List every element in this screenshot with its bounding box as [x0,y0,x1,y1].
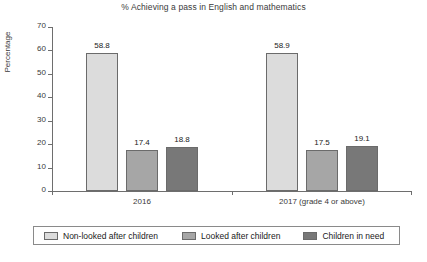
legend-item-children-in-need: Children in need [303,231,384,241]
y-tick-mark [48,97,52,98]
legend-item-non-looked-after-children: Non-looked after children [44,231,158,241]
bar-2016-series-0 [86,53,118,191]
bar-value-label: 58.8 [80,41,124,50]
legend-label-1: Looked after children [201,231,280,241]
category-label: 2017 (grade 4 or above) [232,197,412,206]
category-label: 2016 [52,197,232,206]
bar-value-label: 17.5 [300,138,344,147]
y-tick-label: 30 [37,115,46,124]
bar-value-label: 17.4 [120,138,164,147]
legend-swatch-icon-1 [182,232,196,240]
bar-2016-series-1 [126,150,158,191]
y-tick-label: 70 [37,21,46,30]
y-tick-label: 50 [37,68,46,77]
y-tick-mark [48,74,52,75]
y-tick-label: 60 [37,44,46,53]
y-axis-line [52,27,53,191]
bar-2017-grade-4-or-above--series-0 [266,53,298,191]
y-tick-mark [48,27,52,28]
y-tick-mark [48,50,52,51]
chart-title: % Achieving a pass in English and mathem… [0,2,427,12]
chart-legend: Non-looked after children Looked after c… [33,226,400,245]
bar-value-label: 19.1 [340,134,384,143]
legend-swatch-icon-0 [44,232,58,240]
y-tick-mark [48,144,52,145]
y-tick-mark [48,121,52,122]
bar-2016-series-2 [166,147,198,191]
y-tick-mark [48,168,52,169]
y-tick-label: 40 [37,91,46,100]
y-tick-label: 20 [37,138,46,147]
x-tick-mark [52,191,53,195]
legend-swatch-icon-2 [303,232,317,240]
y-axis-title: Percentage [3,12,12,92]
bar-2017-grade-4-or-above--series-2 [346,146,378,191]
bar-value-label: 58.9 [260,41,304,50]
x-tick-mark [232,191,233,195]
bar-value-label: 18.8 [160,135,204,144]
bar-2017-grade-4-or-above--series-1 [306,150,338,191]
y-tick-label: 0 [42,185,46,194]
legend-label-2: Children in need [322,231,384,241]
legend-label-0: Non-looked after children [63,231,158,241]
plot-area: 010203040506070 58.817.418.858.917.519.1… [52,27,412,191]
y-tick-label: 10 [37,162,46,171]
legend-item-looked-after-children: Looked after children [182,231,280,241]
x-tick-mark [411,191,412,195]
bar-chart: % Achieving a pass in English and mathem… [0,0,427,262]
